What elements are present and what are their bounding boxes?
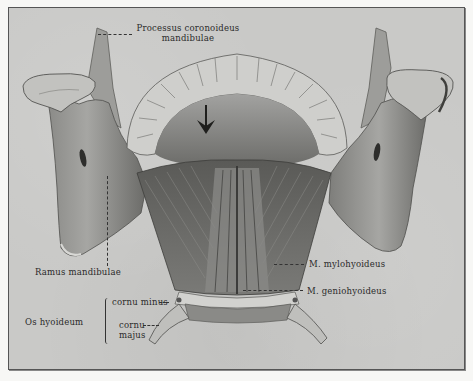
label-cornu-majus: cornu majus (119, 320, 146, 340)
leader-geniohyoideus (243, 290, 303, 291)
label-cornu-majus-line2: majus (119, 330, 146, 340)
label-cornu-majus-line1: cornu (119, 320, 146, 330)
label-ramus-mandibulae: Ramus mandibulae (35, 267, 121, 277)
right-ramus (329, 28, 453, 252)
anatomical-illustration (9, 8, 464, 369)
label-os-hyoideum: Os hyoideum (25, 317, 83, 327)
label-processus-coronoideus: Processus coronoideus mandibulae (133, 23, 243, 43)
leader-cornu-minus (159, 302, 169, 303)
label-processus-line1: Processus coronoideus (133, 23, 243, 33)
floor-muscles (137, 160, 331, 295)
dental-arch (127, 54, 347, 166)
hyoid-bone (149, 292, 327, 344)
leader-mylohyoideus (274, 264, 304, 265)
leader-processus (98, 34, 132, 35)
label-processus-line2: mandibulae (133, 33, 243, 43)
hyoid-bracket (105, 298, 110, 344)
label-m-mylohyoideus: M. mylohyoideus (309, 259, 385, 269)
leader-ramus (107, 176, 108, 266)
leader-cornu-majus (143, 325, 159, 326)
label-m-geniohyoideus: M. geniohyoideus (307, 286, 387, 296)
figure-plate: Processus coronoideus mandibulae Ramus m… (8, 7, 465, 370)
